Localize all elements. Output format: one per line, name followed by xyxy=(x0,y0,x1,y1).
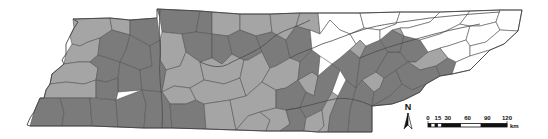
region-texture xyxy=(30,98,64,126)
north-arrow-icon xyxy=(404,113,408,129)
region-texture xyxy=(50,62,98,84)
north-arrow-icon-right xyxy=(408,113,412,129)
scale-tick-label: 0 xyxy=(426,115,430,121)
scale-unit: km xyxy=(510,123,519,129)
scale-tick-label: 90 xyxy=(484,115,491,121)
north-arrow: N xyxy=(404,102,412,129)
scale-tick-label: 30 xyxy=(444,115,451,121)
region-texture xyxy=(157,9,200,34)
tennessee-county-map: N 015306090120 km xyxy=(0,0,548,139)
region-texture xyxy=(90,98,118,127)
county-regions xyxy=(30,9,522,132)
region-texture xyxy=(170,100,206,129)
scale-tick-label: 120 xyxy=(502,115,513,121)
scale-tick-label: 15 xyxy=(435,115,442,121)
county-region xyxy=(496,10,522,31)
scale-tick-label: 60 xyxy=(464,115,471,121)
scale-bar: 015306090120 km xyxy=(426,115,518,129)
region-texture xyxy=(60,98,92,126)
region-texture xyxy=(116,90,146,128)
north-label: N xyxy=(405,102,412,112)
